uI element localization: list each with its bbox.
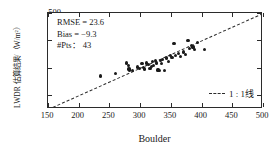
scatter-point — [167, 60, 170, 63]
y-tick-mark-right — [257, 40, 261, 41]
x-tick-label: 250 — [102, 110, 115, 120]
y-tick-mark-right — [257, 68, 261, 69]
x-axis-title: Boulder — [47, 133, 262, 144]
x-tick-mark-top — [232, 13, 233, 17]
x-tick-mark — [232, 103, 233, 107]
x-tick-label: 150 — [41, 110, 54, 120]
scatter-point — [193, 48, 196, 51]
scatter-point — [99, 74, 102, 77]
scatter-point — [158, 69, 161, 72]
x-tick-mark-top — [202, 13, 203, 17]
y-tick-mark — [48, 13, 52, 14]
x-tick-label: 500 — [256, 110, 269, 120]
y-tick-mark — [48, 68, 52, 69]
statistics-annotation: RMSE = 23.6 Bias = −9.3 #Pts： 43 — [57, 17, 104, 52]
npts-label: #Pts： 43 — [57, 40, 104, 52]
y-tick-mark — [48, 40, 52, 41]
scatter-point — [179, 55, 182, 58]
scatter-point — [196, 41, 199, 44]
x-tick-mark — [140, 103, 141, 107]
x-tick-mark — [109, 103, 110, 107]
scatter-point — [143, 67, 146, 70]
x-tick-label: 300 — [133, 110, 146, 120]
x-tick-label: 400 — [194, 110, 207, 120]
scatter-point — [172, 42, 175, 45]
x-tick-mark — [202, 103, 203, 107]
chart-legend: 1 : 1线 — [209, 87, 254, 100]
scatter-point — [186, 39, 189, 42]
x-tick-label: 350 — [163, 110, 176, 120]
scatter-point — [131, 69, 134, 72]
x-tick-mark-top — [263, 13, 264, 17]
x-tick-label: 450 — [225, 110, 238, 120]
scatter-point — [184, 53, 187, 56]
x-tick-mark — [171, 103, 172, 107]
rmse-label: RMSE = 23.6 — [57, 17, 104, 29]
scatter-point — [161, 58, 164, 61]
scatter-chart-figure: LWDR 估算结果/（W/m²） 200300400500 1502002503… — [0, 0, 278, 155]
x-tick-mark-top — [140, 13, 141, 17]
x-tick-mark-top — [79, 13, 80, 17]
scatter-point — [155, 61, 158, 64]
legend-label-one-to-one: 1 : 1线 — [229, 87, 254, 100]
y-tick-mark-right — [257, 95, 261, 96]
x-tick-mark-top — [109, 13, 110, 17]
y-tick-mark-right — [257, 13, 261, 14]
x-tick-mark — [79, 103, 80, 107]
scatter-point — [203, 48, 206, 51]
plot-area: RMSE = 23.6 Bias = −9.3 #Pts： 43 1 : 1线 — [47, 12, 262, 108]
x-tick-label: 200 — [71, 110, 84, 120]
scatter-point — [138, 67, 141, 70]
x-tick-mark-top — [171, 13, 172, 17]
scatter-point — [160, 62, 163, 65]
scatter-point — [163, 69, 166, 72]
bias-label: Bias = −9.3 — [57, 29, 104, 41]
scatter-point — [140, 62, 143, 65]
y-axis-title: LWDR 估算结果/（W/m²） — [11, 6, 22, 126]
dashed-line-icon — [209, 93, 225, 94]
x-tick-mark — [263, 103, 264, 107]
y-tick-mark — [48, 95, 52, 96]
scatter-point — [114, 72, 117, 75]
x-tick-mark — [48, 103, 49, 107]
